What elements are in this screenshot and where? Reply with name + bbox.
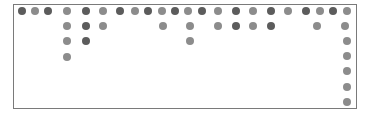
dot-dark: [44, 7, 52, 15]
dot-light: [186, 37, 194, 45]
dot-dark: [232, 22, 240, 30]
dot-dark: [232, 7, 240, 15]
dot-light: [343, 7, 351, 15]
dot-light: [63, 37, 71, 45]
dot-dark: [82, 7, 90, 15]
dot-dark: [144, 7, 152, 15]
dot-light: [99, 22, 107, 30]
dot-light: [316, 7, 324, 15]
dot-dark: [302, 7, 310, 15]
dot-light: [99, 7, 107, 15]
dot-light: [214, 7, 222, 15]
dot-light: [63, 7, 71, 15]
dot-dark: [82, 37, 90, 45]
dot-light: [159, 22, 167, 30]
dot-light: [31, 7, 39, 15]
dot-light: [313, 22, 321, 30]
dot-dark: [171, 7, 179, 15]
dot-light: [63, 22, 71, 30]
dot-dark: [116, 7, 124, 15]
dot-light: [343, 98, 351, 106]
dot-light: [131, 7, 139, 15]
dot-dark: [329, 7, 337, 15]
dot-light: [343, 37, 351, 45]
dot-dark: [198, 7, 206, 15]
dot-light: [214, 22, 222, 30]
dot-dark: [267, 22, 275, 30]
dot-light: [343, 83, 351, 91]
dot-light: [341, 22, 349, 30]
dot-light: [284, 7, 292, 15]
dot-light: [249, 7, 257, 15]
dot-light: [158, 7, 166, 15]
dot-dark: [267, 7, 275, 15]
dot-light: [184, 7, 192, 15]
dot-light: [186, 22, 194, 30]
dot-light: [63, 53, 71, 61]
dot-light: [249, 22, 257, 30]
dot-dark: [82, 22, 90, 30]
dot-light: [343, 67, 351, 75]
dot-light: [343, 52, 351, 60]
dot-dark: [18, 7, 26, 15]
